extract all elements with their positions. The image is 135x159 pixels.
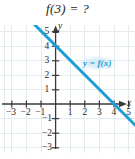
y-tick-label-1: 1 [45,85,50,95]
y-tick-label-3: 3 [45,56,50,66]
x-tick-label-3: 3 [97,108,102,118]
graph-svg [0,25,135,153]
y-tick-label-2: 2 [45,71,50,81]
y-axis-label: y [58,22,62,32]
plot-background [0,25,135,153]
x-axis-label: x [127,99,131,109]
x-tick-label-5: 5 [126,108,131,118]
y-tick-label-4: 4 [45,42,50,52]
plot-area [0,25,135,153]
x-tick-label-4: 4 [112,108,117,118]
y-tick-label--1: −1 [42,114,52,124]
curve-annotation-label: y = f(x) [79,56,116,70]
y-tick-label--2: −2 [42,129,52,139]
x-tick-label--3: −3 [6,108,16,118]
x-tick-label--2: −2 [21,108,31,118]
y-tick-label--3: −3 [42,143,52,153]
figure-container: f(3) = ? [0,0,135,159]
y-tick-label-5: 5 [45,27,50,37]
x-tick-label-1: 1 [68,108,73,118]
figure-title: f(3) = ? [0,1,135,17]
x-tick-label-2: 2 [82,108,87,118]
